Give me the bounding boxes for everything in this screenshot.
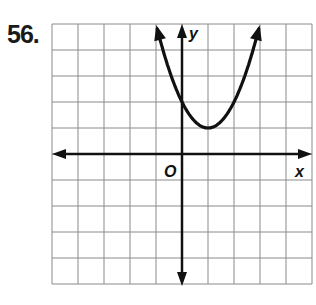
- origin-label: O: [164, 163, 177, 180]
- coordinate-plane: x y O: [0, 0, 316, 305]
- y-axis-label: y: [188, 25, 199, 42]
- axes: [52, 24, 312, 286]
- x-axis-label: x: [294, 163, 305, 180]
